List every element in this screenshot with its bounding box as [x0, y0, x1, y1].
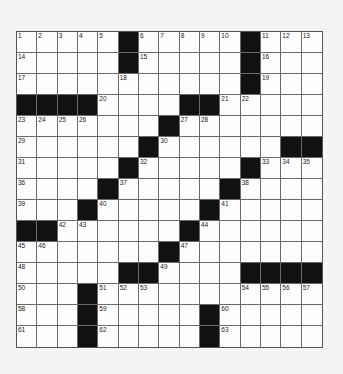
grid-cell[interactable]	[241, 116, 261, 137]
grid-cell[interactable]: 5	[98, 32, 118, 53]
grid-cell[interactable]	[281, 305, 301, 326]
grid-cell[interactable]	[281, 179, 301, 200]
grid-cell[interactable]	[139, 116, 159, 137]
grid-cell[interactable]	[98, 137, 118, 158]
grid-cell[interactable]	[302, 200, 322, 221]
grid-cell[interactable]	[98, 158, 118, 179]
grid-cell[interactable]	[98, 221, 118, 242]
grid-cell[interactable]: 39	[17, 200, 37, 221]
grid-cell[interactable]	[159, 326, 179, 347]
grid-cell[interactable]	[119, 95, 139, 116]
grid-cell[interactable]	[241, 137, 261, 158]
grid-cell[interactable]	[220, 263, 240, 284]
grid-cell[interactable]	[159, 305, 179, 326]
grid-cell[interactable]	[139, 95, 159, 116]
grid-cell[interactable]	[78, 242, 98, 263]
grid-cell[interactable]: 59	[98, 305, 118, 326]
grid-cell[interactable]	[281, 242, 301, 263]
grid-cell[interactable]	[159, 284, 179, 305]
grid-cell[interactable]	[58, 137, 78, 158]
grid-cell[interactable]	[98, 242, 118, 263]
grid-cell[interactable]: 60	[220, 305, 240, 326]
grid-cell[interactable]	[58, 53, 78, 74]
grid-cell[interactable]: 23	[17, 116, 37, 137]
grid-cell[interactable]: 26	[78, 116, 98, 137]
grid-cell[interactable]: 47	[180, 242, 200, 263]
grid-cell[interactable]	[58, 305, 78, 326]
grid-cell[interactable]: 18	[119, 74, 139, 95]
grid-cell[interactable]: 48	[17, 263, 37, 284]
grid-cell[interactable]	[78, 74, 98, 95]
grid-cell[interactable]	[37, 200, 57, 221]
grid-cell[interactable]: 8	[180, 32, 200, 53]
grid-cell[interactable]	[220, 74, 240, 95]
grid-cell[interactable]	[139, 179, 159, 200]
grid-cell[interactable]	[281, 74, 301, 95]
grid-cell[interactable]	[159, 179, 179, 200]
grid-cell[interactable]	[58, 179, 78, 200]
grid-cell[interactable]	[37, 158, 57, 179]
grid-cell[interactable]	[37, 326, 57, 347]
grid-cell[interactable]: 9	[200, 32, 220, 53]
grid-cell[interactable]: 15	[139, 53, 159, 74]
grid-cell[interactable]	[220, 221, 240, 242]
grid-cell[interactable]	[261, 200, 281, 221]
grid-cell[interactable]: 53	[139, 284, 159, 305]
grid-cell[interactable]	[220, 53, 240, 74]
grid-cell[interactable]: 6	[139, 32, 159, 53]
grid-cell[interactable]: 14	[17, 53, 37, 74]
grid-cell[interactable]	[139, 326, 159, 347]
grid-cell[interactable]	[37, 74, 57, 95]
grid-cell[interactable]: 22	[241, 95, 261, 116]
grid-cell[interactable]	[58, 242, 78, 263]
grid-cell[interactable]	[119, 116, 139, 137]
grid-cell[interactable]	[220, 137, 240, 158]
grid-cell[interactable]	[281, 95, 301, 116]
grid-cell[interactable]	[159, 95, 179, 116]
grid-cell[interactable]	[200, 53, 220, 74]
grid-cell[interactable]	[302, 74, 322, 95]
grid-cell[interactable]: 2	[37, 32, 57, 53]
grid-cell[interactable]	[261, 305, 281, 326]
grid-cell[interactable]	[220, 116, 240, 137]
grid-cell[interactable]	[78, 158, 98, 179]
grid-cell[interactable]	[241, 221, 261, 242]
grid-cell[interactable]	[139, 200, 159, 221]
grid-cell[interactable]: 12	[281, 32, 301, 53]
grid-cell[interactable]: 52	[119, 284, 139, 305]
grid-cell[interactable]: 24	[37, 116, 57, 137]
grid-cell[interactable]: 43	[78, 221, 98, 242]
grid-cell[interactable]	[119, 137, 139, 158]
grid-cell[interactable]: 13	[302, 32, 322, 53]
grid-cell[interactable]	[139, 221, 159, 242]
grid-cell[interactable]: 54	[241, 284, 261, 305]
grid-cell[interactable]	[180, 53, 200, 74]
grid-cell[interactable]	[261, 95, 281, 116]
grid-cell[interactable]	[159, 158, 179, 179]
grid-cell[interactable]	[98, 74, 118, 95]
grid-cell[interactable]	[180, 158, 200, 179]
grid-cell[interactable]: 30	[159, 137, 179, 158]
grid-cell[interactable]	[302, 326, 322, 347]
grid-cell[interactable]	[261, 137, 281, 158]
grid-cell[interactable]	[119, 221, 139, 242]
grid-cell[interactable]	[180, 200, 200, 221]
grid-cell[interactable]	[159, 74, 179, 95]
grid-cell[interactable]: 27	[180, 116, 200, 137]
grid-cell[interactable]	[180, 263, 200, 284]
grid-cell[interactable]	[37, 137, 57, 158]
grid-cell[interactable]	[58, 326, 78, 347]
grid-cell[interactable]	[241, 326, 261, 347]
grid-cell[interactable]	[180, 305, 200, 326]
grid-cell[interactable]	[139, 305, 159, 326]
grid-cell[interactable]: 10	[220, 32, 240, 53]
grid-cell[interactable]	[180, 74, 200, 95]
grid-cell[interactable]	[200, 158, 220, 179]
grid-cell[interactable]	[281, 326, 301, 347]
grid-cell[interactable]: 61	[17, 326, 37, 347]
grid-cell[interactable]: 46	[37, 242, 57, 263]
grid-cell[interactable]	[58, 158, 78, 179]
grid-cell[interactable]	[180, 179, 200, 200]
grid-cell[interactable]: 56	[281, 284, 301, 305]
grid-cell[interactable]	[78, 179, 98, 200]
